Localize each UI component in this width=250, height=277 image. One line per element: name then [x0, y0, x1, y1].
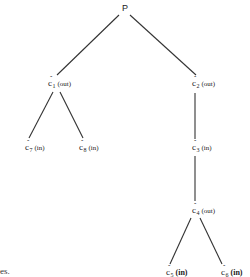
edge-p-c1 — [57, 15, 119, 75]
node-symbol: cˆ — [48, 78, 52, 88]
node-c5: cˆ5(in) — [166, 267, 188, 277]
node-status: (in) — [89, 144, 99, 152]
node-symbol: cˆ — [192, 205, 196, 215]
node-symbol: cˆ — [221, 267, 225, 277]
node-c8: cˆ8(in) — [79, 142, 99, 155]
node-c2: cˆ2(out) — [192, 78, 215, 91]
node-c7: cˆ7(in) — [25, 142, 45, 155]
tree-edges — [0, 0, 250, 277]
node-c4: cˆ4(out) — [192, 205, 215, 218]
node-subscript: 7 — [30, 147, 33, 153]
node-subscript: 4 — [197, 210, 200, 216]
node-status: (out) — [202, 80, 216, 88]
node-subscript: 1 — [53, 83, 56, 89]
edge-c1-c7 — [29, 92, 53, 138]
node-symbol: cˆ — [192, 78, 196, 88]
node-subscript: 2 — [197, 83, 200, 89]
node-status: (out) — [58, 80, 72, 88]
edge-c4-c6 — [200, 218, 222, 264]
node-c6: cˆ6(in) — [221, 267, 243, 277]
edge-c4-c5 — [170, 218, 191, 264]
node-subscript: 8 — [84, 147, 87, 153]
edge-c1-c8 — [60, 92, 83, 138]
node-status: (out) — [202, 207, 216, 215]
node-subscript: 6 — [226, 272, 229, 277]
node-subscript: 5 — [171, 272, 174, 277]
node-status: (in) — [176, 268, 188, 277]
node-status: (in) — [231, 268, 243, 277]
node-symbol: cˆ — [166, 267, 170, 277]
node-c3: cˆ3(in) — [192, 142, 212, 155]
node-status: (in) — [202, 144, 212, 152]
node-subscript: 3 — [197, 147, 200, 153]
root-node-p: P — [122, 3, 128, 13]
edge-p-c2 — [130, 15, 196, 75]
node-symbol: cˆ — [192, 142, 196, 152]
node-c1: cˆ1(out) — [48, 78, 71, 91]
node-symbol: cˆ — [79, 142, 83, 152]
node-status: (in) — [35, 144, 45, 152]
node-symbol: cˆ — [25, 142, 29, 152]
caption-fragment: es. — [0, 266, 10, 276]
